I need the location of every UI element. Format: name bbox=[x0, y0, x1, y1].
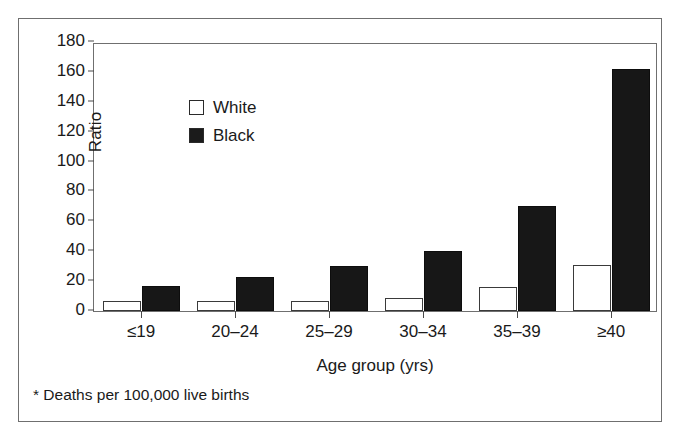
bars-layer: ≤1920–2425–2930–3435–39≥40 bbox=[94, 44, 656, 311]
y-tick-label: 20 bbox=[66, 270, 85, 290]
x-tick-label: ≤19 bbox=[127, 322, 155, 342]
bar-white bbox=[103, 301, 141, 311]
y-tick-label: 140 bbox=[57, 90, 85, 110]
bar-black bbox=[330, 266, 368, 311]
x-tick-mark bbox=[235, 311, 236, 318]
bar-group: 35–39 bbox=[470, 44, 564, 311]
figure-container: Ratio 020406080100120140160180 WhiteBlac… bbox=[0, 0, 677, 441]
y-tick-label: 40 bbox=[66, 240, 85, 260]
bar-black bbox=[142, 286, 180, 311]
x-tick-label: ≥40 bbox=[597, 322, 625, 342]
y-tick-mark bbox=[88, 41, 94, 42]
x-tick-mark bbox=[611, 311, 612, 318]
bar-white bbox=[479, 287, 517, 311]
x-tick-label: 20–24 bbox=[211, 322, 258, 342]
chart-footnote: * Deaths per 100,000 live births bbox=[33, 386, 249, 404]
bar-group: ≤19 bbox=[94, 44, 188, 311]
bar-black bbox=[612, 69, 650, 311]
x-tick-mark bbox=[517, 311, 518, 318]
plot-area: Ratio 020406080100120140160180 WhiteBlac… bbox=[93, 43, 657, 312]
bar-white bbox=[573, 265, 611, 311]
y-tick-label: 100 bbox=[57, 150, 85, 170]
bar-group: 30–34 bbox=[376, 44, 470, 311]
bar-black bbox=[518, 206, 556, 311]
x-tick-mark bbox=[141, 311, 142, 318]
y-tick-label: 0 bbox=[76, 300, 85, 320]
y-tick-label: 180 bbox=[57, 31, 85, 51]
bar-group: 20–24 bbox=[188, 44, 282, 311]
x-tick-label: 30–34 bbox=[399, 322, 446, 342]
bar-black bbox=[236, 277, 274, 311]
y-tick-label: 120 bbox=[57, 120, 85, 140]
y-tick-label: 60 bbox=[66, 210, 85, 230]
x-tick-mark bbox=[423, 311, 424, 318]
x-tick-label: 25–29 bbox=[305, 322, 352, 342]
bar-white bbox=[197, 301, 235, 311]
y-tick-label: 80 bbox=[66, 180, 85, 200]
bar-white bbox=[385, 298, 423, 311]
x-tick-label: 35–39 bbox=[493, 322, 540, 342]
bar-group: ≥40 bbox=[564, 44, 658, 311]
x-tick-mark bbox=[329, 311, 330, 318]
bar-black bbox=[424, 251, 462, 311]
x-axis-title: Age group (yrs) bbox=[93, 356, 657, 376]
bar-group: 25–29 bbox=[282, 44, 376, 311]
bar-white bbox=[291, 301, 329, 311]
y-tick-label: 160 bbox=[57, 60, 85, 80]
